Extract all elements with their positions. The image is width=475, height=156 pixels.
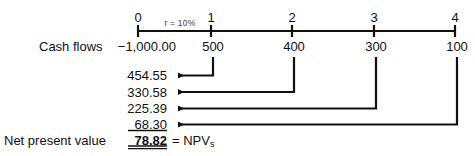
cash-flow-period-1: 500 (202, 40, 224, 53)
present-value-period-1: 454.55 (127, 69, 167, 82)
connector-period-3-to-pv (178, 57, 376, 109)
discount-rate-label: r = 10% (165, 19, 196, 28)
period-label-3: 3 (370, 11, 377, 24)
npv-equals-sign: = (172, 133, 180, 148)
connector-period-1-to-pv (178, 57, 213, 76)
cash-flow-period-3: 300 (365, 40, 387, 53)
npv-timeline-diagram: 0 1 2 3 4 r = 10% Cash flows −1,000.00 5… (0, 0, 475, 156)
npv-subscript: s (210, 139, 215, 149)
period-label-2: 2 (288, 11, 295, 24)
cash-flows-row-label: Cash flows (39, 40, 103, 53)
period-label-0: 0 (134, 11, 141, 24)
period-label-4: 4 (451, 11, 458, 24)
cash-flow-period-4: 100 (446, 40, 468, 53)
period-label-1: 1 (207, 11, 214, 24)
npv-value: 78.82 (134, 134, 167, 147)
cash-flow-period-0: −1,000.00 (118, 40, 176, 53)
connector-period-4-to-pv (178, 57, 457, 125)
net-present-value-row-label: Net present value (4, 134, 106, 147)
npv-equation: = NPVs (172, 134, 214, 147)
cash-flow-period-2: 400 (283, 40, 305, 53)
present-value-period-3: 225.39 (127, 102, 167, 115)
npv-symbol: NPV (183, 133, 210, 148)
present-value-period-4: 68.30 (134, 118, 167, 131)
present-value-period-2: 330.58 (127, 86, 167, 99)
